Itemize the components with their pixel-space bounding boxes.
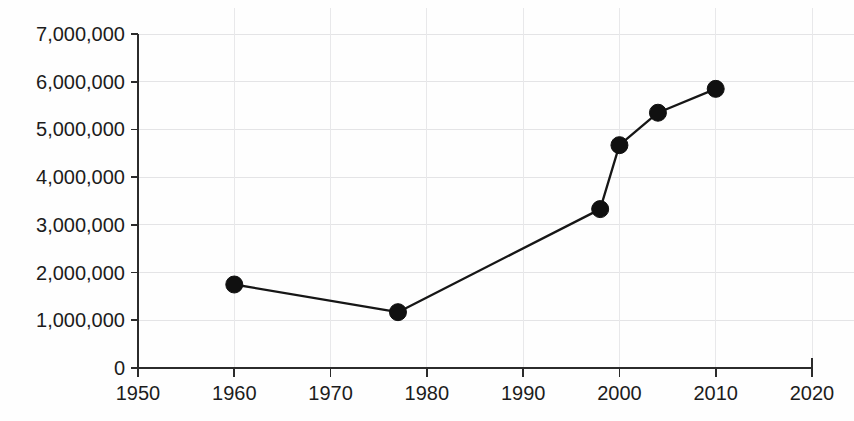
data-series [234, 89, 715, 312]
vertical-gridlines [234, 8, 812, 368]
x-axis-tick-label: 2010 [693, 382, 738, 405]
x-axis-tick-label: 1990 [501, 382, 546, 405]
x-axis-tick-label: 1950 [116, 382, 161, 405]
data-point-marker [707, 80, 724, 97]
x-axis-tick-label: 1960 [212, 382, 257, 405]
y-axis-tick-label: 7,000,000 [0, 23, 125, 46]
y-axis-tick-label: 0 [0, 357, 125, 380]
data-point-marker [592, 201, 609, 218]
x-axis-tick-label: 2000 [597, 382, 642, 405]
y-axis-tick-label: 1,000,000 [0, 309, 125, 332]
data-point-markers [226, 80, 724, 320]
y-axis-tick-label: 3,000,000 [0, 213, 125, 236]
data-point-marker [649, 104, 666, 121]
data-point-marker [226, 276, 243, 293]
series-line [234, 89, 715, 312]
line-chart: 01,000,0002,000,0003,000,0004,000,0005,0… [0, 0, 854, 421]
data-point-marker [389, 304, 406, 321]
data-point-marker [611, 137, 628, 154]
chart-canvas [0, 0, 854, 421]
y-axis-tick-label: 4,000,000 [0, 166, 125, 189]
y-axis-tick-label: 2,000,000 [0, 261, 125, 284]
x-axis-tick-label: 1970 [308, 382, 353, 405]
x-axis-tick-label: 2020 [790, 382, 835, 405]
y-axis-tick-label: 5,000,000 [0, 118, 125, 141]
horizontal-gridlines [138, 34, 854, 320]
y-axis-tick-label: 6,000,000 [0, 70, 125, 93]
x-axis-tick-label: 1980 [405, 382, 450, 405]
